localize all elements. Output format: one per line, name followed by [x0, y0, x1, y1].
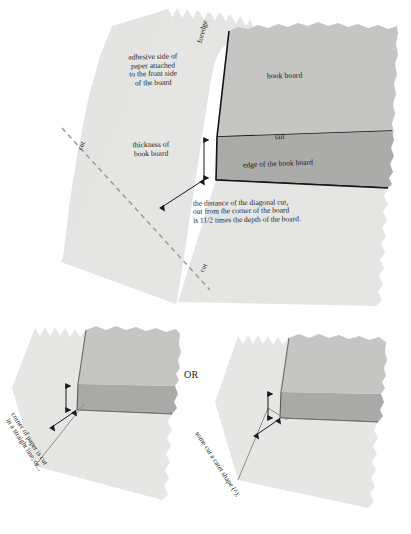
- label-or-separator: OR: [184, 369, 199, 380]
- br-board-top: [281, 334, 387, 394]
- figure-canvas: adhesive side of paper attached to the f…: [0, 0, 411, 534]
- bottom-right-diagram-group: [215, 334, 387, 508]
- label-thickness-of-book-board: thickness of book board: [118, 140, 184, 158]
- bl-board-top: [78, 326, 181, 386]
- label-diagonal-cut-distance-note: the distance of the diagonal cut, out fr…: [193, 198, 301, 225]
- bl-board-edge: [77, 384, 178, 414]
- bottom-left-diagram-group: [12, 326, 181, 500]
- board-top-face: [217, 22, 398, 138]
- top-diagram-group: [61, 8, 398, 306]
- label-adhesive-side: adhesive side of paper attached to the f…: [110, 52, 197, 88]
- label-book-board: book board: [267, 72, 303, 82]
- label-tail: tail: [275, 133, 285, 142]
- br-board-edge: [280, 392, 384, 422]
